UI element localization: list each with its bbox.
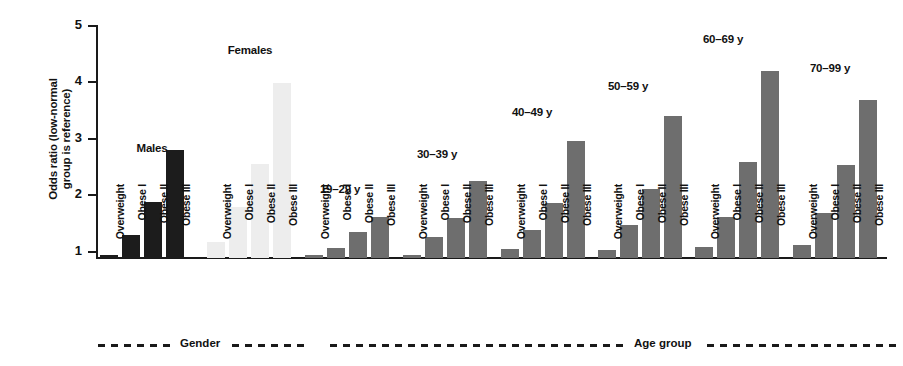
- y-tick-label-5: 5: [62, 17, 82, 32]
- y-tick-label-4: 4: [62, 73, 82, 88]
- x-tick-label-obese-ii: Obese II: [851, 184, 865, 262]
- group-title-males: Males: [117, 142, 187, 154]
- x-tick-label-obese-ii: Obese II: [461, 184, 475, 262]
- group-title-70-99: 70–99 y: [795, 62, 865, 74]
- x-tick-label-obese-iii: Obese III: [483, 184, 497, 262]
- x-tick-label-obese-iii: Obese III: [873, 184, 887, 262]
- x-tick-label-overweight: Overweight: [114, 184, 128, 262]
- x-tick-label-obese-i: Obese I: [537, 184, 551, 262]
- group-title-60-69: 60–69 y: [688, 33, 758, 45]
- group-title-50-59: 50–59 y: [593, 80, 663, 92]
- y-tick-1: [88, 251, 97, 253]
- x-tick-label-obese-ii: Obese II: [656, 184, 670, 262]
- age-group-bracket-left: [330, 344, 625, 347]
- x-tick-label-obese-ii: Obese II: [265, 184, 279, 262]
- y-tick-4: [88, 81, 97, 83]
- gender-bracket-right: [232, 344, 308, 347]
- x-tick-label-overweight: Overweight: [515, 184, 529, 262]
- group-title-40-49: 40–49 y: [497, 106, 567, 118]
- x-tick-label-obese-iii: Obese III: [678, 184, 692, 262]
- x-tick-label-obese-ii: Obese II: [158, 184, 172, 262]
- x-tick-label-obese-iii: Obese III: [287, 184, 301, 262]
- group-title-females: Females: [205, 44, 295, 56]
- odds-ratio-bar-chart: Odds ratio (low-normal group is referenc…: [0, 0, 903, 366]
- x-tick-label-obese-ii: Obese II: [753, 184, 767, 262]
- y-axis-title-line-1: Odds ratio (low-normal: [47, 19, 60, 259]
- x-tick-label-obese-i: Obese I: [731, 184, 745, 262]
- x-tick-label-obese-ii: Obese II: [559, 184, 573, 262]
- x-tick-label-obese-i: Obese I: [341, 184, 355, 262]
- x-tick-label-obese-i: Obese I: [439, 184, 453, 262]
- y-tick-2: [88, 194, 97, 196]
- x-tick-label-obese-iii: Obese III: [775, 184, 789, 262]
- age-group-bracket-label: Age group: [634, 337, 692, 349]
- x-tick-label-overweight: Overweight: [221, 184, 235, 262]
- age-group-bracket-right: [707, 344, 897, 347]
- y-tick-5: [88, 25, 97, 27]
- y-tick-label-2: 2: [62, 186, 82, 201]
- x-tick-label-obese-iii: Obese III: [581, 184, 595, 262]
- x-tick-label-obese-iii: Obese III: [180, 184, 194, 262]
- x-tick-label-obese-i: Obese I: [136, 184, 150, 262]
- x-tick-label-overweight: Overweight: [319, 184, 333, 262]
- y-tick-label-3: 3: [62, 130, 82, 145]
- x-tick-label-overweight: Overweight: [417, 184, 431, 262]
- x-tick-label-obese-iii: Obese III: [385, 184, 399, 262]
- x-tick-label-overweight: Overweight: [709, 184, 723, 262]
- group-title-30-39: 30–39 y: [402, 148, 472, 160]
- x-tick-label-obese-i: Obese I: [829, 184, 843, 262]
- x-tick-label-overweight: Overweight: [612, 184, 626, 262]
- x-tick-label-obese-i: Obese I: [243, 184, 257, 262]
- y-tick-label-1: 1: [62, 243, 82, 258]
- gender-bracket-left: [98, 344, 174, 347]
- y-tick-3: [88, 138, 97, 140]
- x-tick-label-overweight: Overweight: [807, 184, 821, 262]
- x-tick-label-obese-i: Obese I: [634, 184, 648, 262]
- x-tick-label-obese-ii: Obese II: [363, 184, 377, 262]
- gender-bracket-label: Gender: [180, 337, 220, 349]
